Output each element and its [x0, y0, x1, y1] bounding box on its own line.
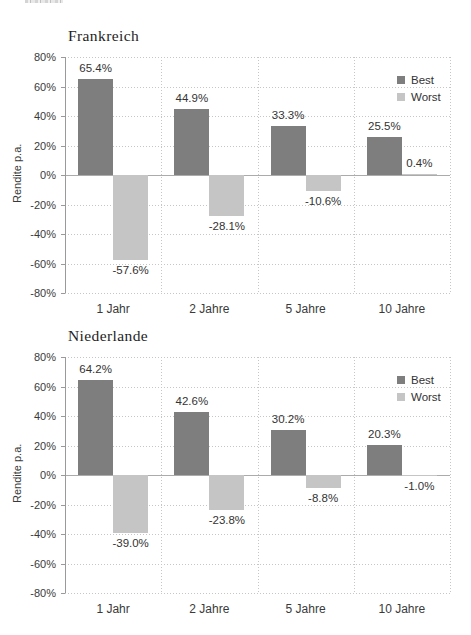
- bar-worst: [402, 174, 437, 175]
- value-label: 65.4%: [66, 62, 126, 74]
- bar-best: [367, 137, 402, 175]
- y-tick-label: -20%: [0, 499, 56, 512]
- axis-tick: [61, 293, 65, 294]
- value-label: 64.2%: [66, 363, 126, 375]
- bar-best: [174, 412, 209, 475]
- y-axis-line: [65, 357, 66, 593]
- bar-worst: [402, 475, 437, 476]
- gridline-vertical: [450, 57, 451, 293]
- axis-tick: [61, 593, 65, 594]
- gridline-horizontal: [65, 593, 450, 594]
- bar-best: [271, 430, 306, 475]
- value-label: 42.6%: [162, 395, 222, 407]
- chart-title: Niederlande: [68, 327, 148, 345]
- y-tick-label: -60%: [0, 558, 56, 571]
- legend-label: Worst: [411, 91, 441, 103]
- chart-niederlande: Niederlande Rendite p.a. 64.2%-39.0%42.6…: [0, 325, 471, 625]
- legend: BestWorst: [397, 371, 441, 405]
- value-label: 33.3%: [258, 109, 318, 121]
- gridline-horizontal: [65, 293, 450, 294]
- x-category-label: 10 Jahre: [357, 302, 447, 316]
- gridline-vertical: [450, 357, 451, 593]
- legend-swatch-worst: [397, 393, 405, 401]
- legend-row: Best: [397, 71, 441, 88]
- legend-row: Worst: [397, 388, 441, 405]
- y-tick-label: -40%: [0, 228, 56, 241]
- y-tick-label: 0%: [0, 169, 56, 182]
- bar-worst: [306, 175, 341, 191]
- y-tick-label: -60%: [0, 258, 56, 271]
- x-category-label: 1 Jahr: [68, 302, 158, 316]
- bar-best: [78, 380, 113, 475]
- plot-area: 65.4%-57.6%44.9%-28.1%33.3%-10.6%25.5%0.…: [65, 57, 450, 293]
- y-tick-label: 40%: [0, 110, 56, 123]
- legend-row: Worst: [397, 88, 441, 105]
- legend-label: Best: [411, 74, 434, 86]
- y-tick-label: 60%: [0, 381, 56, 394]
- legend-label: Worst: [411, 391, 441, 403]
- y-tick-label: 60%: [0, 81, 56, 94]
- bar-worst: [306, 475, 341, 488]
- bar-best: [78, 79, 113, 175]
- bar-best: [174, 109, 209, 175]
- plot-area: 64.2%-39.0%42.6%-23.8%30.2%-8.8%20.3%-1.…: [65, 357, 450, 593]
- y-tick-label: 20%: [0, 140, 56, 153]
- page: Frankreich Rendite p.a. 65.4%-57.6%44.9%…: [0, 0, 471, 635]
- y-tick-label: -40%: [0, 528, 56, 541]
- value-label: -1.0%: [389, 480, 449, 492]
- x-category-label: 2 Jahre: [164, 302, 254, 316]
- y-tick-label: 20%: [0, 440, 56, 453]
- legend-swatch-best: [397, 376, 405, 384]
- x-category-label: 2 Jahre: [164, 602, 254, 616]
- bar-worst: [209, 175, 244, 216]
- value-label: 0.4%: [389, 157, 449, 169]
- value-label: 25.5%: [354, 120, 414, 132]
- bar-worst: [113, 175, 148, 260]
- bar-worst: [209, 475, 244, 510]
- x-category-label: 10 Jahre: [357, 602, 447, 616]
- value-label: 30.2%: [258, 413, 318, 425]
- x-category-label: 1 Jahr: [68, 602, 158, 616]
- value-label: -10.6%: [293, 195, 353, 207]
- chart-title: Frankreich: [68, 27, 139, 45]
- y-tick-label: -80%: [0, 287, 56, 300]
- bar-worst: [113, 475, 148, 533]
- value-label: 20.3%: [354, 428, 414, 440]
- y-tick-label: 40%: [0, 410, 56, 423]
- y-tick-label: 0%: [0, 469, 56, 482]
- bar-best: [367, 445, 402, 475]
- x-category-label: 5 Jahre: [261, 602, 351, 616]
- value-label: 44.9%: [162, 92, 222, 104]
- value-label: -28.1%: [197, 220, 257, 232]
- legend-swatch-worst: [397, 93, 405, 101]
- value-label: -8.8%: [293, 492, 353, 504]
- value-label: -57.6%: [101, 264, 161, 276]
- y-tick-label: 80%: [0, 351, 56, 364]
- legend-row: Best: [397, 371, 441, 388]
- legend-swatch-best: [397, 76, 405, 84]
- x-category-label: 5 Jahre: [261, 302, 351, 316]
- chart-frankreich: Frankreich Rendite p.a. 65.4%-57.6%44.9%…: [0, 25, 471, 325]
- legend: BestWorst: [397, 71, 441, 105]
- y-axis-line: [65, 57, 66, 293]
- clipped-text-fragment: [25, 0, 63, 3]
- y-tick-label: -80%: [0, 587, 56, 600]
- bar-best: [271, 126, 306, 175]
- value-label: -39.0%: [101, 537, 161, 549]
- legend-label: Best: [411, 374, 434, 386]
- value-label: -23.8%: [197, 514, 257, 526]
- y-tick-label: -20%: [0, 199, 56, 212]
- y-tick-label: 80%: [0, 51, 56, 64]
